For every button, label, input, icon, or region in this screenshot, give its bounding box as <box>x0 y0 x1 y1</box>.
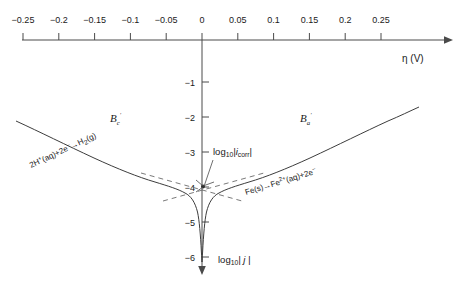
y-tick-label-1: −2 <box>185 113 195 123</box>
y-tick-label-4: −5 <box>185 218 195 228</box>
icorr-main: log <box>213 146 226 157</box>
x-tick-label-9: 0.2 <box>339 15 352 25</box>
y-tick-label-2: −3 <box>185 148 195 158</box>
x-tick-label-3: −0.1 <box>122 15 140 25</box>
y-tick-label-5: −6 <box>185 253 195 263</box>
x-tick-label-10: 0.25 <box>372 15 390 25</box>
x-tick-label-7: 0.1 <box>267 15 280 25</box>
y-tick-label-0: −1 <box>185 78 195 88</box>
beta-a-sub: a <box>307 119 311 126</box>
x-tick-label-4: −0.05 <box>155 15 178 25</box>
tafel-plot-figure: −0.25 −0.2 −0.15 −0.1 −0.05 0 0.05 0.1 0… <box>0 0 467 294</box>
x-tick-label-5: 0 <box>199 15 204 25</box>
x-tick-label-1: −0.2 <box>50 15 68 25</box>
beta-c-sub: c <box>117 119 120 126</box>
y-axis-title-tail: | j | <box>238 254 250 265</box>
icorr-close: | <box>250 146 252 157</box>
icorr-sub2: corr <box>238 151 250 158</box>
x-tick-label-6: 0.05 <box>229 15 247 25</box>
x-tick-label-0: −0.25 <box>12 15 35 25</box>
x-axis-title: η (V) <box>402 53 424 64</box>
x-tick-label-2: −0.15 <box>83 15 106 25</box>
x-tick-label-8: 0.15 <box>301 15 319 25</box>
y-axis-title-main: log <box>218 254 231 265</box>
